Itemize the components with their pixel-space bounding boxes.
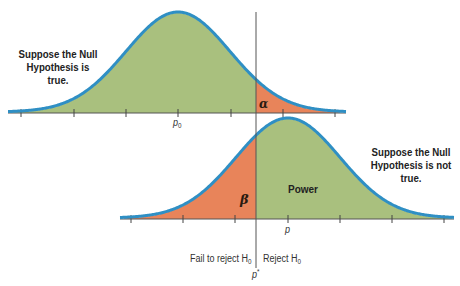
hypothesis-test-diagram [0, 0, 460, 286]
null-true-caption: Suppose the Null Hypothesis is true. [18, 48, 99, 87]
p-letter: p [285, 224, 290, 235]
p-star-superscript: * [257, 268, 259, 275]
reject-subscript: 0 [298, 258, 302, 265]
reject-label: Reject H0 [263, 253, 301, 265]
alpha-label: α [259, 97, 268, 111]
alpha-region [256, 81, 340, 113]
null-false-caption: Suppose the Null Hypothesis is not true. [360, 146, 460, 185]
beta-label: β [240, 192, 249, 207]
power-label: Power [288, 184, 318, 195]
beta-region [124, 136, 256, 219]
p0-label: p0 [173, 117, 182, 129]
fail-text: Fail to reject H [190, 253, 248, 264]
p0-subscript: 0 [178, 122, 182, 129]
fail-subscript: 0 [248, 258, 252, 265]
null-caption-line1: Suppose the Null [18, 48, 99, 61]
fail-to-reject-label: Fail to reject H0 [190, 253, 252, 265]
alt-caption-line2: Hypothesis is not true. [360, 159, 460, 185]
p-star-label: p* [252, 268, 259, 280]
null-caption-line2: Hypothesis is true. [18, 61, 99, 87]
alt-caption-line1: Suppose the Null [360, 146, 460, 159]
p-label: p [285, 224, 290, 235]
reject-text: Reject H [263, 253, 298, 264]
